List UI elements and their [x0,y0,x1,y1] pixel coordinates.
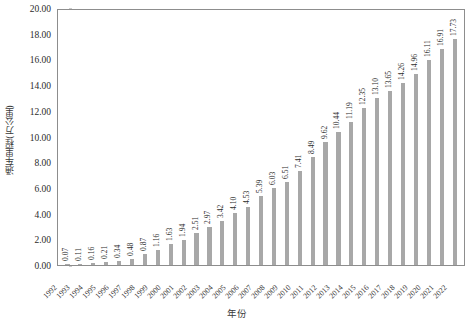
bar-slot: 14.26 [397,10,410,265]
bar-value-label: 7.41 [294,154,303,167]
y-tick-label: 6.00 [34,184,51,194]
bar-slot: 8.49 [306,10,319,265]
bar: 7.41 [298,171,302,265]
bar-slot: 5.39 [255,10,268,265]
bar-slot: 2.97 [203,10,216,265]
bar-slot: 6.51 [280,10,293,265]
bar: 0.16 [91,263,95,265]
bar-slot: 13.10 [371,10,384,265]
bar-slot: 0.11 [74,10,87,265]
bar-value-label: 4.10 [230,196,239,209]
y-tick-label: 18.00 [30,30,51,40]
bar-slot: 0.87 [138,10,151,265]
bar-value-label: 1.94 [178,224,187,237]
bar-value-label: 12.35 [359,87,368,104]
bar: 16.11 [427,60,431,265]
bar: 14.96 [414,74,418,265]
bar: 11.19 [349,122,353,265]
bar-value-label: 17.73 [449,19,458,36]
bar: 9.62 [323,142,327,265]
bar: 1.94 [182,240,186,265]
bar-value-label: 10.44 [333,112,342,129]
bar-slot: 16.11 [422,10,435,265]
bar-value-label: 0.21 [100,246,109,259]
bar-slot: 0.07 [61,10,74,265]
bar-value-label: 4.53 [242,191,251,204]
bar-value-label: 1.16 [152,234,161,247]
bar-value-label: 1.63 [165,228,174,241]
bar-value-label: 2.51 [191,217,200,230]
bar: 4.53 [246,207,250,265]
bar: 0.48 [130,259,134,265]
y-tick-label: 16.00 [30,55,51,65]
bars-layer: 0.070.110.160.210.340.480.871.161.631.94… [58,10,464,265]
bar-value-label: 5.39 [255,180,264,193]
bar: 0.87 [143,254,147,265]
bar-slot: 16.91 [435,10,448,265]
y-tick-label: 4.00 [34,210,51,220]
bar-slot: 7.41 [293,10,306,265]
x-axis-title: 年份 [0,306,473,320]
bar-value-label: 3.42 [217,205,226,218]
bar: 14.26 [401,83,405,265]
bar-slot: 0.48 [126,10,139,265]
y-tick-label: 2.00 [34,235,51,245]
bar: 10.44 [336,132,340,265]
y-axis-tick-labels: 0.002.004.006.008.0010.0012.0014.0016.00… [14,0,54,266]
bar: 6.03 [272,188,276,265]
bar-slot: 0.21 [100,10,113,265]
bar: 0.11 [78,264,82,265]
bar-value-label: 13.65 [384,71,393,88]
y-tick-label: 0.00 [34,261,51,271]
bar: 17.73 [453,39,457,265]
bar-slot: 10.44 [332,10,345,265]
plot-area: 0.070.110.160.210.340.480.871.161.631.94… [57,9,465,266]
bar-slot: 3.42 [216,10,229,265]
bar: 3.42 [220,221,224,265]
bar-value-label: 6.51 [281,166,290,179]
bar-value-label: 14.96 [410,54,419,71]
bar: 4.10 [233,213,237,265]
bar-slot: 11.19 [345,10,358,265]
bar-slot: 1.16 [151,10,164,265]
bar-value-label: 14.26 [397,63,406,80]
bar: 0.07 [65,264,69,265]
x-axis-tick-labels: 1992199319941995199619971998199920002001… [57,267,465,307]
y-tick-label: 14.00 [30,81,51,91]
bar-value-label: 0.48 [126,243,135,256]
bar-value-label: 0.07 [62,248,71,261]
bar-value-label: 6.03 [268,172,277,185]
bar: 1.16 [156,250,160,265]
y-tick-label: 10.00 [30,133,51,143]
bar: 2.51 [194,233,198,265]
bar-value-label: 8.49 [307,140,316,153]
bar-slot: 13.65 [384,10,397,265]
bar-slot: 1.94 [177,10,190,265]
bar-slot: 17.73 [448,10,461,265]
bar-value-label: 13.10 [372,78,381,95]
bar-value-label: 0.11 [75,248,84,261]
bar-slot: 4.53 [242,10,255,265]
bar-slot: 6.03 [268,10,281,265]
y-tick-label: 20.00 [30,4,51,14]
bar-slot: 2.51 [190,10,203,265]
bar-value-label: 0.34 [113,244,122,257]
bar: 0.34 [117,261,121,265]
bar-slot: 1.63 [164,10,177,265]
x-tick-slot: 2022 [449,267,462,307]
bar-value-label: 9.62 [320,126,329,139]
bar: 0.21 [104,262,108,265]
bar: 6.51 [285,182,289,265]
bar: 12.35 [362,108,366,265]
bar-value-label: 11.19 [346,103,355,120]
bar-value-label: 16.91 [436,29,445,46]
bar-value-label: 0.87 [139,238,148,251]
bar-slot: 9.62 [319,10,332,265]
bar: 16.91 [440,49,444,265]
bar-slot: 0.16 [87,10,100,265]
bar-slot: 0.34 [113,10,126,265]
bar: 5.39 [259,196,263,265]
y-tick-label: 12.00 [30,107,51,117]
bar-chart: 通车里程(万公里) 0.002.004.006.008.0010.0012.00… [0,0,473,329]
bar: 8.49 [311,157,315,265]
